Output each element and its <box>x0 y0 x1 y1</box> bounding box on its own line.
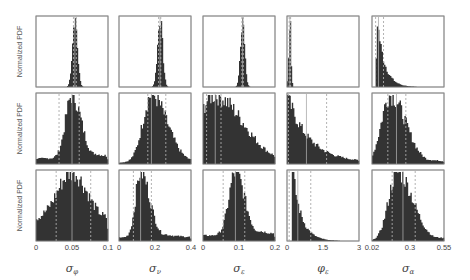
histogram-grid-figure: Normalized PDFNormalized PDFNormalized P… <box>0 0 470 280</box>
histogram-panel-r2-c2 <box>119 93 191 164</box>
histogram-panel-r3-c5 <box>372 170 444 241</box>
x-axis-label: σα <box>402 262 415 276</box>
x-tick-label: 0 <box>117 243 121 252</box>
x-tick-label: 0.02 <box>365 243 380 252</box>
x-tick-label: 0 <box>285 243 289 252</box>
histogram-panel-r3-c1 <box>36 170 108 241</box>
x-axis-label: σε <box>233 262 245 276</box>
y-axis-label: Normalized PDF <box>16 180 23 231</box>
histogram-panel-r2-c3 <box>203 93 275 164</box>
x-tick-label: 0.4 <box>186 243 196 252</box>
histogram-panel-r1-c2 <box>119 16 191 87</box>
histogram-panel-r1-c3 <box>203 16 275 87</box>
x-tick-label: 0.2 <box>150 243 160 252</box>
x-tick-label: 0.55 <box>437 243 452 252</box>
x-tick-label: 1.5 <box>318 243 328 252</box>
x-tick-label: 0.3 <box>405 243 415 252</box>
histogram-panel-r3-c4 <box>287 170 359 241</box>
x-tick-label: 3 <box>357 243 361 252</box>
x-tick-label: 0 <box>201 243 205 252</box>
histogram-panel-r3-c3 <box>203 170 275 241</box>
histogram-panel-r3-c2 <box>119 170 191 241</box>
histogram-panel-r1-c1 <box>36 16 108 87</box>
x-tick-label: 0.1 <box>103 243 113 252</box>
histogram-panel-r1-c5 <box>372 16 444 87</box>
x-axis-label: σφ <box>66 262 79 276</box>
x-tick-label: 0.2 <box>270 243 280 252</box>
histogram-panel-r2-c1 <box>36 93 108 164</box>
histogram-panel-r1-c4 <box>287 16 359 87</box>
x-tick-label: 0.05 <box>65 243 80 252</box>
histogram-panel-r2-c5 <box>372 93 444 164</box>
x-tick-label: 0.1 <box>234 243 244 252</box>
x-axis-label: φε <box>317 262 329 276</box>
x-axis-label: σν <box>149 262 162 276</box>
histogram-panel-r2-c4 <box>287 93 359 164</box>
y-axis-label: Normalized PDF <box>16 26 23 77</box>
x-tick-label: 0 <box>34 243 38 252</box>
y-axis-label: Normalized PDF <box>16 103 23 154</box>
